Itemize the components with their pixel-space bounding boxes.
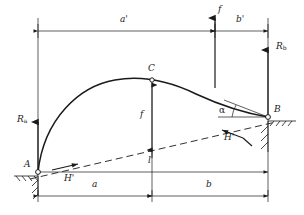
reaction-ra-subscript: a	[24, 117, 28, 124]
diagram-canvas	[0, 0, 304, 215]
reaction-rb-label: Rb	[276, 42, 287, 51]
bottom-dimension-line	[38, 190, 268, 202]
alpha-angle-arc	[224, 100, 268, 117]
dimension-label-b: b	[206, 180, 212, 189]
arch-diagram-figure: A B C Ra Rb f f l H' H' α a' b' a b	[0, 0, 304, 215]
chord-label: l	[148, 156, 151, 165]
extension-lines	[38, 18, 268, 196]
crown-hinge-c	[150, 78, 154, 82]
dimension-label-a-prime: a'	[120, 15, 128, 24]
support-b	[261, 115, 296, 152]
alpha-angle-label: α	[219, 106, 225, 115]
support-a	[14, 170, 40, 199]
top-dimension-line	[38, 24, 268, 38]
point-label-a: A	[24, 160, 31, 169]
reaction-ra-symbol: R	[17, 114, 24, 124]
dimension-label-b-prime: b'	[236, 15, 244, 24]
point-label-c: C	[148, 64, 155, 73]
reaction-rb-symbol: R	[276, 41, 283, 51]
load-label: f	[218, 5, 221, 14]
arch-curve	[38, 78, 268, 172]
thrust-right-label: H'	[224, 133, 234, 142]
dimension-label-a: a	[92, 180, 97, 189]
thrust-left-label: H'	[64, 174, 74, 183]
point-label-b: B	[274, 105, 281, 114]
reaction-ra-label: Ra	[17, 115, 27, 124]
rise-label: f	[140, 110, 143, 119]
reaction-rb-subscript: b	[283, 44, 287, 51]
chord-line	[30, 122, 276, 179]
